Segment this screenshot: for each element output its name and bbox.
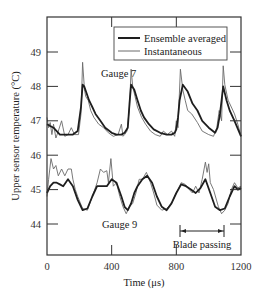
- y-tick-label: 44: [31, 219, 42, 230]
- series-layer: [47, 62, 241, 213]
- temperature-chart: 44454647484904008001200 Upper sensor tem…: [0, 0, 260, 301]
- gauge-7-label: Gauge 7: [101, 68, 136, 79]
- x-tick-label: 800: [168, 261, 184, 272]
- y-tick-label: 49: [31, 47, 42, 58]
- legend-ensemble-label: Ensemble averaged: [144, 33, 227, 44]
- y-tick-label: 48: [31, 81, 42, 92]
- x-axis-label: Time (μs): [123, 277, 165, 289]
- x-tick-label: 1200: [231, 261, 252, 272]
- gauge-9-instantaneous-line: [47, 159, 241, 214]
- gauge-9-label: Gauge 9: [102, 219, 137, 230]
- x-tick-label: 400: [104, 261, 120, 272]
- blade-passing-label: Blade passing: [173, 239, 232, 250]
- blade-passing-arrow: [180, 225, 224, 237]
- gauge-9-ensemble-averaged-line: [47, 176, 241, 210]
- y-tick-label: 46: [31, 150, 42, 161]
- y-tick-label: 45: [31, 184, 42, 195]
- x-tick-label: 0: [44, 261, 49, 272]
- y-tick-label: 47: [31, 115, 42, 126]
- y-axis-label: Upper sensor temperature (°C): [10, 71, 22, 201]
- legend: Ensemble averaged Instantaneous: [114, 27, 227, 60]
- legend-instantaneous-label: Instantaneous: [144, 46, 202, 57]
- gauge-7-instantaneous-line: [47, 62, 241, 138]
- gauge-7-ensemble-averaged-line: [47, 85, 241, 137]
